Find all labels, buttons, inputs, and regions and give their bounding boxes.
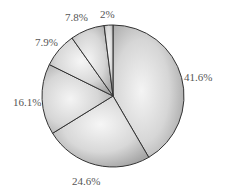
slice-label-24-6: 24.6%: [72, 175, 100, 187]
slice-label-2: 2%: [100, 8, 115, 20]
pie-slices: [42, 25, 184, 167]
slice-label-7-9: 7.9%: [35, 36, 58, 48]
slice-label-7-8: 7.8%: [65, 11, 88, 23]
slice-label-16-1: 16.1%: [13, 96, 41, 108]
slice-label-41-6: 41.6%: [184, 71, 212, 83]
